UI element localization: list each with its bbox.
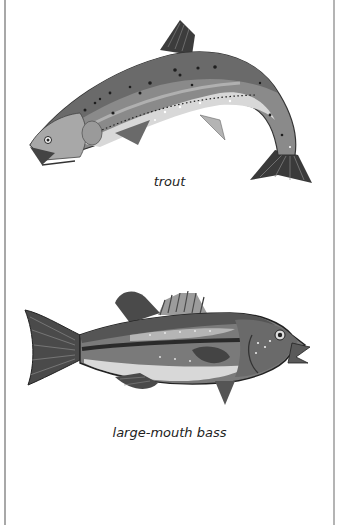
page-right-border <box>333 0 335 525</box>
page-left-border <box>4 0 6 525</box>
large-mouth-bass-illustration-icon <box>20 285 310 415</box>
trout-caption: trout <box>0 174 339 189</box>
large-mouth-bass-caption: large-mouth bass <box>0 425 339 440</box>
trout-illustration-icon <box>20 15 320 185</box>
document-page: trout <box>0 0 339 525</box>
